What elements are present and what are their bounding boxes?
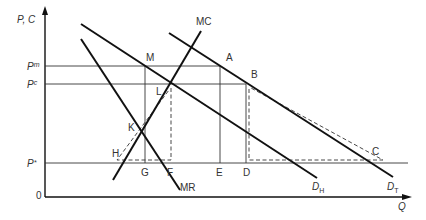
dashed-triangle-right (249, 88, 383, 160)
point-m-label: M (146, 52, 154, 63)
mr-curve (81, 39, 180, 190)
x-axis-arrow-icon (402, 194, 412, 200)
point-b-label: B (251, 69, 258, 80)
origin-label: 0 (36, 190, 42, 201)
point-e-label: E (216, 167, 223, 178)
monopoly-diagram: P, C Q 0 Pm Pc P* MC MR DH DT M A B L K … (0, 0, 426, 220)
point-a-label: A (226, 52, 233, 63)
mc-label: MC (196, 16, 212, 27)
x-axis-label: Q (398, 201, 406, 212)
point-d-label: D (243, 167, 250, 178)
point-k-label: K (128, 122, 135, 133)
d-home-label: DH (312, 181, 324, 194)
point-c-label: C (372, 146, 379, 157)
point-l-label: L (156, 86, 162, 97)
mr-label: MR (180, 182, 196, 193)
pc-label: Pc (27, 79, 38, 90)
point-f-label: F (167, 167, 173, 178)
point-h-label: H (112, 148, 119, 159)
d-total-label: DT (387, 181, 399, 194)
dashed-triangle-left (117, 88, 171, 160)
pm-label: Pm (27, 61, 40, 72)
point-g-label: G (141, 167, 149, 178)
pstar-label: P* (27, 158, 37, 169)
y-axis-label: P, C (17, 14, 36, 25)
y-axis-arrow-icon (42, 6, 48, 15)
